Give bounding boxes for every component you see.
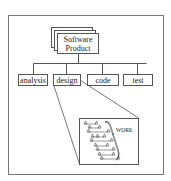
work-label: WORK [116, 127, 133, 133]
child-code: code [88, 75, 119, 86]
tree-connectors [34, 54, 147, 75]
child-label: design [57, 76, 78, 85]
child-label: test [132, 76, 144, 85]
work-detail-box: WORK [80, 119, 139, 165]
child-label: code [95, 76, 111, 85]
child-design: design [54, 75, 81, 86]
child-analysis: analysis [19, 75, 48, 86]
child-label: analysis [20, 76, 46, 85]
child-test: test [124, 75, 153, 86]
root-label-line2: Product [66, 44, 92, 53]
root-stack: Software Product [52, 28, 99, 54]
software-product-diagram: Software Product analysis design code te… [0, 0, 171, 181]
root-label-line1: Software [64, 35, 93, 44]
